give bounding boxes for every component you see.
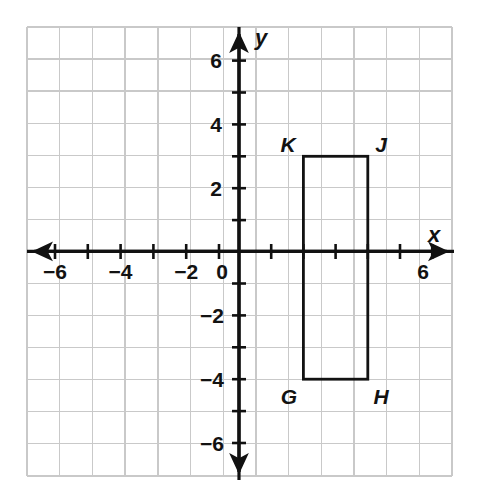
- y-tick-label-neg6: −6: [200, 432, 224, 455]
- x-tick-label-pos6: 6: [417, 260, 429, 283]
- coordinate-plane-figure: −6 −4 −2 0 6 6 4 2 −2 −4 −6 y x K J G H: [0, 0, 480, 498]
- x-tick-label-neg2: −2: [174, 260, 198, 283]
- vertex-label-k: K: [280, 133, 297, 156]
- x-axis-name-label: x: [427, 222, 441, 247]
- vertex-label-h: H: [373, 385, 389, 408]
- x-tick-label-zero: 0: [216, 260, 228, 283]
- x-tick-label-neg4: −4: [109, 260, 133, 283]
- rectangle-ghjk: [303, 156, 367, 379]
- rectangle-ghjk-outline: [303, 156, 367, 379]
- vertex-label-g: G: [281, 385, 297, 408]
- y-tick-label-neg4: −4: [200, 368, 224, 391]
- coordinate-plane-canvas: −6 −4 −2 0 6 6 4 2 −2 −4 −6 y x K J G H: [0, 0, 480, 498]
- y-tick-label-neg2: −2: [200, 304, 224, 327]
- y-axis-name-label: y: [254, 25, 269, 50]
- y-tick-label-pos2: 2: [210, 177, 222, 200]
- y-tick-label-pos4: 4: [210, 113, 222, 136]
- y-tick-label-pos6: 6: [210, 49, 222, 72]
- x-tick-label-neg6: −6: [43, 260, 67, 283]
- vertex-label-j: J: [375, 133, 388, 156]
